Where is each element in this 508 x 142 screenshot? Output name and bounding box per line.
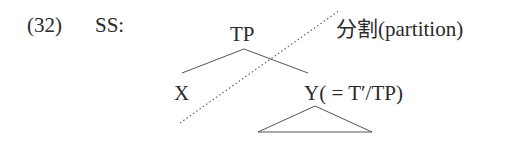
branch-right	[244, 49, 308, 73]
subtree-triangle	[258, 106, 372, 132]
tree-branches	[0, 0, 508, 142]
branch-left	[182, 49, 244, 73]
